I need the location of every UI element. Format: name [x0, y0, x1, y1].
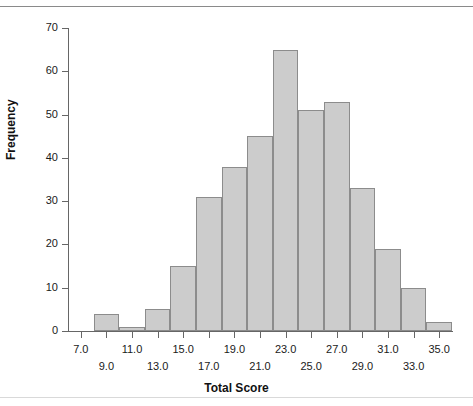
- x-tick-label: 27.0: [317, 343, 357, 355]
- x-tick: [439, 332, 440, 338]
- x-tick: [337, 332, 338, 338]
- y-tick-label: 70: [18, 21, 58, 33]
- x-tick: [106, 332, 107, 338]
- histogram-bar: [298, 110, 324, 331]
- x-tick: [388, 332, 389, 338]
- x-tick: [311, 332, 312, 338]
- x-tick-label: 15.0: [163, 343, 203, 355]
- x-tick: [183, 332, 184, 338]
- histogram-bar: [426, 322, 452, 331]
- bars-container: [68, 28, 452, 331]
- y-tick-label: 50: [18, 108, 58, 120]
- x-axis-title: Total Score: [0, 381, 473, 395]
- x-tick-label: 9.0: [86, 360, 126, 372]
- histogram-bar: [119, 327, 145, 331]
- x-tick: [132, 332, 133, 338]
- x-tick: [286, 332, 287, 338]
- x-tick-label: 31.0: [368, 343, 408, 355]
- histogram-bar: [247, 136, 273, 331]
- y-tick-label: 40: [18, 151, 58, 163]
- x-tick: [81, 332, 82, 338]
- x-tick-label: 19.0: [214, 343, 254, 355]
- x-tick: [158, 332, 159, 338]
- y-tick-label: 20: [18, 237, 58, 249]
- x-tick-label: 35.0: [419, 343, 459, 355]
- y-tick-label: 30: [18, 194, 58, 206]
- x-tick-label: 23.0: [266, 343, 306, 355]
- x-tick-label: 7.0: [61, 343, 101, 355]
- histogram-bar: [324, 102, 350, 331]
- histogram-page: 010203040506070 7.011.015.019.023.027.03…: [0, 0, 473, 406]
- y-axis-title: Frequency: [4, 99, 18, 160]
- x-tick-label: 11.0: [112, 343, 152, 355]
- x-tick-label: 25.0: [291, 360, 331, 372]
- x-tick: [234, 332, 235, 338]
- x-tick-label: 17.0: [189, 360, 229, 372]
- histogram-bar: [222, 167, 248, 331]
- y-tick-label: 60: [18, 64, 58, 76]
- y-tick-label: 10: [18, 281, 58, 293]
- histogram-bar: [375, 249, 401, 331]
- y-tick-label: 0: [18, 324, 58, 336]
- histogram-bar: [401, 288, 427, 331]
- x-tick: [414, 332, 415, 338]
- histogram-chart: 010203040506070 7.011.015.019.023.027.03…: [0, 10, 473, 398]
- histogram-bar: [273, 50, 299, 331]
- x-tick-label: 13.0: [138, 360, 178, 372]
- histogram-bar: [196, 197, 222, 331]
- histogram-bar: [170, 266, 196, 331]
- histogram-bar: [145, 309, 171, 331]
- x-tick: [209, 332, 210, 338]
- y-tick: [62, 331, 68, 332]
- histogram-bar: [350, 188, 376, 331]
- x-tick: [362, 332, 363, 338]
- top-divider: [0, 6, 473, 7]
- histogram-bar: [94, 314, 120, 331]
- x-tick: [260, 332, 261, 338]
- x-tick-label: 29.0: [342, 360, 382, 372]
- x-tick-label: 21.0: [240, 360, 280, 372]
- x-tick-label: 33.0: [394, 360, 434, 372]
